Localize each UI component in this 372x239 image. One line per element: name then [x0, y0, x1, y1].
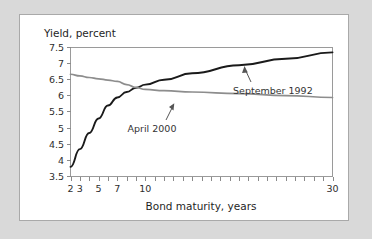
- annotation-april-2000: April 2000: [128, 103, 177, 134]
- x-axis-labels: 23571030: [67, 183, 338, 194]
- x-axis-title: Bond maturity, years: [146, 200, 257, 212]
- y-tick-label: 4.5: [49, 139, 64, 150]
- figure-panel: Yield, percent 7.5 7: [19, 14, 349, 221]
- plot-frame: [71, 48, 333, 177]
- y-tick-label: 6: [58, 90, 64, 101]
- y-axis-ticks: [67, 48, 71, 177]
- series-line-september-1992: [71, 52, 333, 166]
- annotation-label-april-2000: April 2000: [128, 123, 177, 134]
- yield-curve-chart: Yield, percent 7.5 7: [20, 15, 348, 220]
- y-tick-label: 7.5: [49, 42, 64, 53]
- y-tick-label: 3.5: [49, 171, 64, 182]
- y-axis-labels: 7.5 7 6.5 6 5.5 5 4.5 4 3.5: [49, 42, 64, 182]
- y-tick-label: 7: [58, 58, 64, 69]
- annotation-september-1992: September 1992: [233, 66, 313, 96]
- y-tick-label: 5: [58, 123, 64, 134]
- chart-stage: Yield, percent 7.5 7: [20, 15, 348, 220]
- x-tick-label: 3: [77, 183, 83, 194]
- y-tick-label: 5.5: [49, 106, 64, 117]
- y-tick-label: 4: [58, 155, 64, 166]
- y-tick-label: 6.5: [49, 74, 64, 85]
- x-tick-label: 30: [326, 183, 338, 194]
- x-tick-label: 7: [114, 183, 120, 194]
- x-tick-label: 2: [67, 183, 73, 194]
- x-axis-ticks: [72, 177, 334, 181]
- x-tick-label: 5: [96, 183, 102, 194]
- annotation-label-september-1992: September 1992: [233, 85, 313, 96]
- chart-title: Yield, percent: [43, 27, 116, 39]
- x-tick-label: 10: [139, 183, 151, 194]
